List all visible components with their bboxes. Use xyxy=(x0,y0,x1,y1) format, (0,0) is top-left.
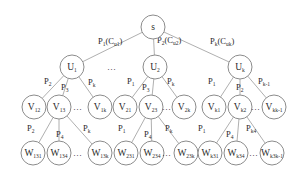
edge-label-cost: (C xyxy=(105,36,114,46)
node-label-subscript: 13k xyxy=(100,153,109,159)
edge-label-close: ) xyxy=(231,36,234,46)
edge-label-u2-v21: P1 xyxy=(127,76,135,87)
edge-label-vk2-wk31: P1 xyxy=(198,123,206,134)
node-label-subscript: k31 xyxy=(210,153,219,159)
node-w134: W134 xyxy=(47,141,71,165)
node-vkk-1: Vkk-1 xyxy=(262,95,286,119)
edge-label-s-u1: P1(Cu1) xyxy=(98,36,122,47)
node-w13k: W13k xyxy=(88,141,112,165)
node-w231: W231 xyxy=(114,141,138,165)
node-label-subscript: 13 xyxy=(60,107,66,113)
ellipsis: … xyxy=(162,102,172,112)
node-v12: V12 xyxy=(22,95,46,119)
edge-label-subscript: 3 xyxy=(147,87,150,93)
edge-label-u1-v1k: Pk xyxy=(88,77,96,88)
node-label-subscript: 231 xyxy=(126,153,135,159)
node-label-subscript: 234 xyxy=(152,153,161,159)
node-label-subscript: 134 xyxy=(59,153,68,159)
edge-label-subscript: 1 xyxy=(213,81,216,87)
edge-label-subscript: k xyxy=(88,128,91,134)
node-uk: Uk xyxy=(228,55,252,79)
edge-label-s-uk: Pk(Cuk) xyxy=(210,36,234,47)
edge-label-v13-w13k: Pk xyxy=(83,123,91,134)
edge-label-subscript: 2 xyxy=(241,87,244,93)
ellipsis: … xyxy=(73,102,83,112)
edge-label-close: ) xyxy=(178,35,181,45)
node-label-subscript: 12 xyxy=(35,107,41,113)
edge-label-subscript: 4 xyxy=(231,134,234,140)
edge-label-v13-w134: P4 xyxy=(56,129,64,140)
node-label-subscript: k1 xyxy=(215,107,221,113)
node-label-base: W xyxy=(50,148,59,158)
edge-label-subscript: k4 xyxy=(251,128,257,134)
ellipsis: … xyxy=(107,62,117,72)
node-w234: W234 xyxy=(140,141,164,165)
edge-label-close: ) xyxy=(119,36,122,46)
tree-diagram: P1(Cu1)P2(Cu2)Pk(Cuk)P2P3PkP1P3PkP1P2Pk-… xyxy=(0,0,294,181)
node-label-base: W xyxy=(177,148,186,158)
node-label-subscript: 2 xyxy=(157,67,160,73)
ellipsis: … xyxy=(73,148,83,158)
edge-label-v13-w131: P2 xyxy=(27,123,35,134)
edge-uk-vk1 xyxy=(221,77,234,97)
node-label-subscript: 1 xyxy=(74,67,77,73)
edge-label-subscript: k xyxy=(170,128,173,134)
node-u2: U2 xyxy=(143,55,167,79)
node-label-base: W xyxy=(261,148,270,158)
edge-s-u2 xyxy=(154,39,155,55)
edge-label-subscript: 4 xyxy=(61,134,64,140)
node-label-subscript: k34 xyxy=(236,153,245,159)
edge-label-subscript: 4 xyxy=(149,134,152,140)
node-vk1: Vk1 xyxy=(202,95,226,119)
node-label-subscript: 131 xyxy=(33,153,42,159)
node-v13: V13 xyxy=(47,95,71,119)
edge-label-u2-v2k: Pk xyxy=(167,76,175,87)
node-label-subscript: 1k xyxy=(101,107,107,113)
edge-label-subscript: k-1 xyxy=(263,81,271,87)
node-label-base: W xyxy=(24,148,33,158)
node-label-subscript: k2 xyxy=(241,107,247,113)
edge-label-u2-v23: P3 xyxy=(142,82,150,93)
edge-label-uk-vkk-1: Pk-1 xyxy=(258,76,270,87)
edge-label-subscript: 3 xyxy=(66,87,69,93)
node-label-base: W xyxy=(201,148,210,158)
edge-label-uk-vk1: P1 xyxy=(208,76,216,87)
edge-vk2-wk34 xyxy=(237,119,239,141)
edge-u2-v23 xyxy=(152,79,154,95)
edge-label-v23-w23k: Pk xyxy=(165,123,173,134)
edge-label-subscript: 1 xyxy=(123,128,126,134)
edge-v13-w131 xyxy=(39,117,53,142)
edge-label-cost: (C xyxy=(164,35,173,45)
ellipsis: … xyxy=(162,148,172,158)
edge-label-subscript: 2 xyxy=(49,81,52,87)
ellipsis: … xyxy=(249,148,259,158)
node-label: s xyxy=(151,22,155,32)
edge-label-subscript: 1 xyxy=(203,128,206,134)
edges-layer xyxy=(39,32,266,144)
node-label-base: W xyxy=(91,148,100,158)
edge-label-v23-w231: P1 xyxy=(118,123,126,134)
node-label-subscript: 2k xyxy=(185,107,191,113)
node-v23: V23 xyxy=(139,95,163,119)
node-wk34: Wk34 xyxy=(224,141,248,165)
edge-label-subscript: 2 xyxy=(32,128,35,134)
edge-label-vk2-wk3k-1: Pk4 xyxy=(246,123,256,134)
node-label-base: W xyxy=(227,148,236,158)
edge-label-uk-vk2: P2 xyxy=(236,82,244,93)
ellipsis: … xyxy=(251,102,261,112)
node-v2k: V2k xyxy=(172,95,196,119)
node-v21: V21 xyxy=(113,95,137,119)
node-wk3k-1: Wk3k-1 xyxy=(260,141,284,165)
edge-label-v23-w234: P4 xyxy=(144,129,152,140)
edge-label-subscript: 1 xyxy=(132,81,135,87)
node-u1: U1 xyxy=(60,55,84,79)
node-label-subscript: 21 xyxy=(126,107,132,113)
edge-uk-vkk-1 xyxy=(248,76,266,98)
edge-label-subscript: k xyxy=(93,82,96,88)
node-label-base: W xyxy=(143,148,152,158)
node-label-subscript: k xyxy=(242,67,245,73)
node-label-subscript: k3k-1 xyxy=(270,153,283,159)
edge-label-vk2-wk34: P4 xyxy=(226,129,234,140)
node-w23k: W23k xyxy=(174,141,198,165)
node-label-subscript: kk-1 xyxy=(272,107,282,113)
